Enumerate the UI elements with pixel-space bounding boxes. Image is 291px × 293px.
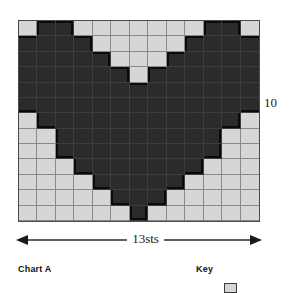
stitch-cell — [204, 36, 222, 51]
stitch-cell — [111, 36, 129, 51]
stitch-cell — [56, 190, 74, 205]
stitch-cell — [185, 159, 203, 174]
stitch-cell — [204, 83, 222, 98]
stitch-cell — [167, 129, 185, 144]
stitch-cell — [19, 113, 37, 128]
stitch-count-label: 13sts — [0, 231, 291, 247]
stitch-cell — [148, 52, 166, 67]
stitch-cell — [130, 129, 148, 144]
stitch-cell — [148, 159, 166, 174]
stitch-cell — [111, 144, 129, 159]
chart-grid-container — [18, 20, 260, 222]
stitch-cell — [56, 129, 74, 144]
stitch-cell — [241, 129, 259, 144]
stitch-cell — [19, 67, 37, 82]
key-swatch-light — [224, 283, 237, 293]
stitch-cell — [185, 83, 203, 98]
stitch-cell — [222, 190, 240, 205]
stitch-cell — [93, 21, 111, 36]
stitch-cell — [56, 52, 74, 67]
stitch-cell — [74, 83, 92, 98]
stitch-cell — [56, 159, 74, 174]
stitch-cell — [222, 21, 240, 36]
stitch-cell — [19, 206, 37, 221]
stitch-cell — [19, 52, 37, 67]
stitch-cell — [185, 206, 203, 221]
stitch-cell — [167, 67, 185, 82]
stitch-cell — [19, 129, 37, 144]
stitch-cell — [56, 67, 74, 82]
stitch-cell — [222, 206, 240, 221]
stitch-cell — [241, 36, 259, 51]
stitch-cell — [130, 144, 148, 159]
stitch-cell — [37, 129, 55, 144]
stitch-cell — [204, 98, 222, 113]
stitch-cell — [148, 21, 166, 36]
stitch-cell — [37, 52, 55, 67]
stitch-cell — [19, 190, 37, 205]
stitch-cell — [167, 190, 185, 205]
stitch-cell — [93, 159, 111, 174]
stitch-cell — [93, 52, 111, 67]
stitch-cell — [204, 129, 222, 144]
stitch-cell — [93, 98, 111, 113]
stitch-cell — [111, 175, 129, 190]
stitch-cell — [185, 21, 203, 36]
stitch-cell — [241, 144, 259, 159]
stitch-cell — [130, 190, 148, 205]
stitch-cell — [130, 206, 148, 221]
stitch-cell — [222, 175, 240, 190]
stitch-cell — [56, 36, 74, 51]
stitch-cell — [74, 36, 92, 51]
stitch-cell — [37, 36, 55, 51]
stitch-cell — [148, 144, 166, 159]
stitch-cell — [111, 98, 129, 113]
stitch-cell — [204, 144, 222, 159]
stitch-cell — [19, 98, 37, 113]
stitch-cell — [19, 175, 37, 190]
stitch-cell — [222, 159, 240, 174]
stitch-cell — [56, 98, 74, 113]
stitch-cell — [167, 83, 185, 98]
stitch-cell — [37, 159, 55, 174]
stitch-cell — [167, 36, 185, 51]
stitch-cell — [148, 98, 166, 113]
stitch-cell — [37, 98, 55, 113]
stitch-cell — [222, 52, 240, 67]
stitch-cell — [37, 113, 55, 128]
stitch-cell — [148, 113, 166, 128]
stitch-cell — [148, 83, 166, 98]
stitch-cell — [241, 67, 259, 82]
stitch-cell — [204, 206, 222, 221]
stitch-cell — [74, 129, 92, 144]
stitch-cell — [204, 67, 222, 82]
stitch-cell — [19, 159, 37, 174]
stitch-cell — [19, 21, 37, 36]
stitch-cell — [93, 144, 111, 159]
stitch-cell — [130, 83, 148, 98]
stitch-cell — [241, 21, 259, 36]
stitch-cell — [222, 67, 240, 82]
stitch-cell — [185, 129, 203, 144]
stitch-cell — [74, 21, 92, 36]
stitch-cell — [148, 36, 166, 51]
stitch-cell — [222, 129, 240, 144]
stitch-cell — [222, 113, 240, 128]
stitch-cell — [185, 52, 203, 67]
stitch-cell — [241, 190, 259, 205]
stitch-cell — [56, 206, 74, 221]
stitch-cell — [74, 190, 92, 205]
stitch-cell — [93, 83, 111, 98]
stitch-cell — [204, 52, 222, 67]
stitch-cell — [204, 113, 222, 128]
stitch-cell — [93, 36, 111, 51]
stitch-cell — [93, 67, 111, 82]
stitch-cell — [93, 113, 111, 128]
stitch-cell — [93, 190, 111, 205]
stitch-cell — [93, 129, 111, 144]
stitch-cell — [167, 206, 185, 221]
stitch-cell — [111, 159, 129, 174]
stitch-cell — [19, 144, 37, 159]
stitch-cell — [204, 21, 222, 36]
